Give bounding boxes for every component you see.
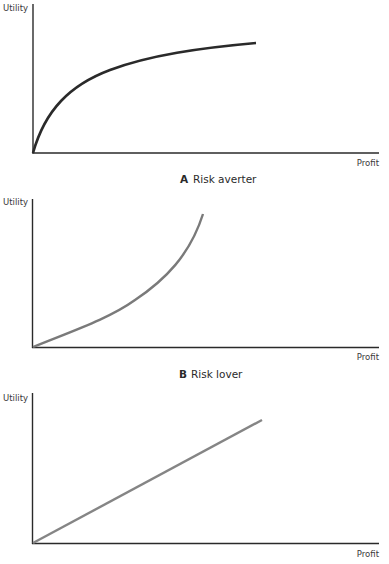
- utility-curve-convex: [33, 214, 203, 347]
- panel-b: Utility Profit B Risk lover: [3, 197, 380, 380]
- utility-line-linear: [33, 420, 262, 543]
- panel-caption: Risk lover: [191, 368, 243, 380]
- y-axis-label: Utility: [3, 393, 28, 403]
- panel-caption: Risk averter: [193, 173, 257, 185]
- panel-letter: B: [179, 368, 187, 380]
- x-axis-label: Profit: [357, 158, 380, 168]
- panel-c: Utility Profit: [3, 393, 380, 559]
- y-axis-label: Utility: [3, 197, 28, 207]
- panel-a: Utility Profit A Risk averter: [3, 3, 380, 185]
- y-axis-label: Utility: [3, 3, 28, 13]
- utility-curve-concave: [33, 43, 256, 153]
- panel-letter: A: [180, 173, 189, 185]
- x-axis-label: Profit: [357, 549, 380, 559]
- x-axis-label: Profit: [357, 352, 380, 362]
- utility-diagrams: Utility Profit A Risk averter Utility Pr…: [0, 0, 389, 564]
